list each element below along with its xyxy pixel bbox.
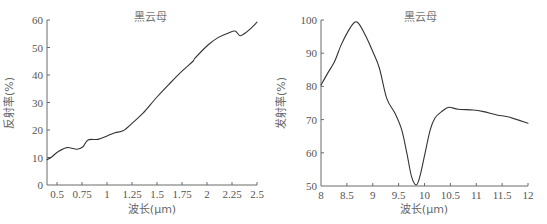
x-tick-label: 11 [471,189,482,201]
x-tick-label: 9 [370,189,376,201]
x-tick-label: 10 [419,189,431,201]
chart-title: 黑云母 [404,11,437,24]
y-tick-label: 50 [306,180,318,192]
x-tick-label: 8.5 [340,189,354,201]
y-tick-label: 100 [301,14,318,26]
y-tick-label: 60 [306,147,318,159]
x-tick-label: 1.5 [150,188,164,200]
data-series-line [47,22,257,160]
y-tick-label: 50 [32,42,44,54]
x-tick-label: 10.5 [441,189,461,201]
y-tick-label: 90 [306,47,318,59]
data-series-line [321,22,528,185]
x-tick-label: 2.5 [250,188,264,200]
chart-panel-emissivity: 黑云母 发射率(%) 波长(μm) 506070809010088.599.51… [274,11,534,216]
y-axis-label: 反射率(%) [2,77,16,129]
x-tick-label: 11.5 [493,189,512,201]
x-tick-label: 1.75 [172,188,192,200]
x-tick-label: 12 [523,189,534,201]
figure: 黑云母 反射率(%) 波长(μm) 01020304050600.50.7511… [0,0,547,224]
y-tick-label: 40 [32,69,44,81]
x-tick-label: 1.25 [122,188,142,200]
y-tick-label: 0 [38,179,44,191]
y-tick-label: 70 [306,114,318,126]
x-axis-label: 波长(μm) [400,203,448,216]
y-tick-label: 80 [306,80,318,92]
x-axis-label: 波长(μm) [128,203,176,216]
chart-panel-reflectance: 黑云母 反射率(%) 波长(μm) 01020304050600.50.7511… [2,11,264,216]
x-tick-label: 8 [318,189,324,201]
x-tick-label: 0.5 [50,188,64,200]
x-tick-label: 9.5 [392,189,406,201]
y-axis-label: 发射率(%) [274,77,288,129]
x-tick-label: 2.25 [222,188,242,200]
y-tick-label: 30 [32,97,44,109]
y-tick-label: 20 [32,124,44,136]
chart-title: 黑云母 [134,11,167,24]
y-tick-label: 10 [32,152,44,164]
y-tick-label: 60 [32,14,44,26]
x-tick-label: 0.75 [72,188,92,200]
x-tick-label: 2 [204,188,210,200]
x-tick-label: 1 [104,188,110,200]
